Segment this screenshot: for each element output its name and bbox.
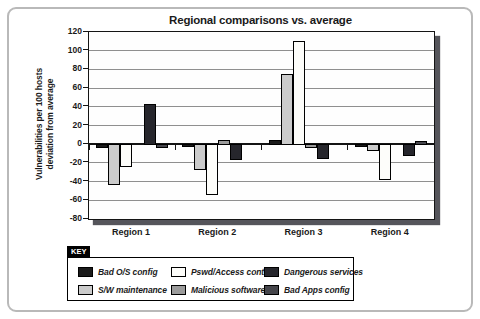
x-category-label-region-3: Region 3 xyxy=(261,227,347,237)
bar-malicious-software-region-2 xyxy=(218,140,230,145)
key-entry-bad-apps-config: Bad Apps config xyxy=(264,284,358,295)
bar-bad-apps-config-region-4 xyxy=(415,141,427,145)
x-category-label-region-4: Region 4 xyxy=(347,227,433,237)
x-axis-tick xyxy=(434,144,435,150)
chart-figure: Regional comparisons vs. average Vulnera… xyxy=(0,0,480,319)
y-tick-label: -40 xyxy=(38,176,82,186)
y-tick-mark xyxy=(83,68,88,69)
legend-swatch-icon xyxy=(78,285,93,295)
bar-dangerous-services-region-3 xyxy=(317,144,329,159)
gridline xyxy=(89,181,434,182)
bar-bad-o-s-config-region-4 xyxy=(355,144,367,147)
legend-label: Dangerous services xyxy=(284,267,363,277)
y-tick-label: -60 xyxy=(38,194,82,204)
bar-s-w-maintenance-region-3 xyxy=(281,74,293,145)
y-tick-mark xyxy=(83,161,88,162)
key-entry-malicious-software: Malicious software xyxy=(171,284,264,295)
bar-bad-apps-config-region-1 xyxy=(156,144,168,148)
bar-pswd-access-control-region-4 xyxy=(379,144,391,180)
legend-label: Malicious software xyxy=(191,285,265,295)
chart-title: Regional comparisons vs. average xyxy=(88,14,433,26)
bar-dangerous-services-region-1 xyxy=(144,104,156,145)
key-tab: KEY xyxy=(67,246,90,258)
key-entry-dangerous-services: Dangerous services xyxy=(264,266,358,277)
y-tick-label: 120 xyxy=(38,26,82,36)
y-tick-label: 60 xyxy=(38,82,82,92)
y-tick-label: -80 xyxy=(38,213,82,223)
y-tick-mark xyxy=(83,31,88,32)
gridline xyxy=(89,125,434,126)
gridline xyxy=(89,106,434,107)
y-tick-mark xyxy=(83,143,88,144)
y-tick-mark xyxy=(83,124,88,125)
bar-pswd-access-control-region-1 xyxy=(120,144,132,167)
gridline xyxy=(89,69,434,70)
y-tick-label: 0 xyxy=(38,138,82,148)
bar-s-w-maintenance-region-2 xyxy=(194,144,206,170)
key-entry-pswd-access-control: Pswd/Access control xyxy=(171,266,264,277)
key-grid: Bad O/S configPswd/Access controlDangero… xyxy=(68,258,353,295)
bar-dangerous-services-region-2 xyxy=(230,144,242,160)
x-axis-tick xyxy=(175,144,176,150)
y-tick-label: -20 xyxy=(38,157,82,167)
y-tick-mark xyxy=(83,180,88,181)
bar-s-w-maintenance-region-1 xyxy=(108,144,120,185)
gridline xyxy=(89,200,434,201)
bar-malicious-software-region-3 xyxy=(305,144,317,148)
y-tick-label: 20 xyxy=(38,120,82,130)
bar-bad-o-s-config-region-2 xyxy=(182,144,194,147)
gridline xyxy=(89,50,434,51)
legend-label: Bad Apps config xyxy=(284,285,350,295)
y-tick-mark xyxy=(83,87,88,88)
x-axis-tick xyxy=(261,144,262,150)
x-category-label-region-2: Region 2 xyxy=(174,227,260,237)
gridline xyxy=(89,88,434,89)
legend-swatch-icon xyxy=(78,267,93,277)
plot-area xyxy=(88,31,435,220)
key-entry-s-w-maintenance: S/W maintenance xyxy=(78,284,171,295)
legend-swatch-icon xyxy=(171,267,186,277)
y-tick-label: 40 xyxy=(38,101,82,111)
legend-swatch-icon xyxy=(264,267,279,277)
bar-bad-o-s-config-region-1 xyxy=(96,144,108,148)
x-category-label-region-1: Region 1 xyxy=(88,227,174,237)
y-tick-mark xyxy=(83,218,88,219)
x-axis-tick xyxy=(347,144,348,150)
key-entry-bad-o-s-config: Bad O/S config xyxy=(78,266,171,277)
legend-label: Pswd/Access control xyxy=(191,267,275,277)
bar-dangerous-services-region-4 xyxy=(403,144,415,156)
y-tick-mark xyxy=(83,199,88,200)
bar-pswd-access-control-region-3 xyxy=(293,41,305,145)
y-tick-mark xyxy=(83,105,88,106)
legend-swatch-icon xyxy=(171,285,186,295)
bar-pswd-access-control-region-2 xyxy=(206,144,218,195)
legend-label: S/W maintenance xyxy=(98,285,167,295)
x-axis-tick xyxy=(89,144,90,150)
bar-bad-o-s-config-region-3 xyxy=(269,140,281,146)
legend-swatch-icon xyxy=(264,285,279,295)
y-tick-label: 100 xyxy=(38,45,82,55)
legend-label: Bad O/S config xyxy=(98,267,158,277)
key-box: Bad O/S configPswd/Access controlDangero… xyxy=(67,257,354,301)
y-tick-label: 80 xyxy=(38,63,82,73)
bar-s-w-maintenance-region-4 xyxy=(367,144,379,151)
y-tick-mark xyxy=(83,49,88,50)
